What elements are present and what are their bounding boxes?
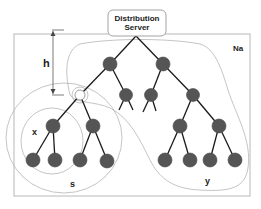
node-l3-x-root	[46, 119, 60, 133]
node-l2-c	[187, 89, 200, 102]
node-l1-right	[156, 57, 170, 71]
subtree-s-label: s	[70, 179, 75, 189]
distribution-tree-diagram: h	[0, 0, 261, 209]
height-label: h	[43, 57, 50, 69]
tree-nodes	[26, 57, 242, 168]
node-l3-b	[86, 119, 100, 133]
leaf-7	[203, 153, 217, 167]
node-l1-left	[103, 57, 117, 71]
leaf-5	[158, 153, 172, 167]
tree-edges	[33, 36, 235, 160]
server-label-line2: Server	[125, 23, 150, 32]
leaf-1	[26, 153, 40, 167]
leaf-8	[228, 153, 242, 167]
node-l3-d	[212, 119, 226, 133]
server-label-line1: Distribution	[115, 14, 160, 23]
leaf-3	[73, 153, 87, 167]
subtree-x-label: x	[32, 127, 37, 137]
subtree-s-outline	[6, 83, 122, 193]
dim-arrow-down-icon	[51, 89, 56, 94]
region-na-label: Na	[233, 44, 244, 53]
region-y-label: y	[205, 176, 210, 186]
distribution-server-box: Distribution Server	[108, 10, 166, 36]
node-l2-b	[145, 89, 158, 102]
leaf-4	[100, 154, 114, 168]
leaf-6	[183, 153, 197, 167]
leaf-2	[48, 153, 62, 167]
node-l2-selected	[75, 90, 85, 100]
node-l2-a	[120, 89, 133, 102]
node-l3-c	[173, 119, 187, 133]
